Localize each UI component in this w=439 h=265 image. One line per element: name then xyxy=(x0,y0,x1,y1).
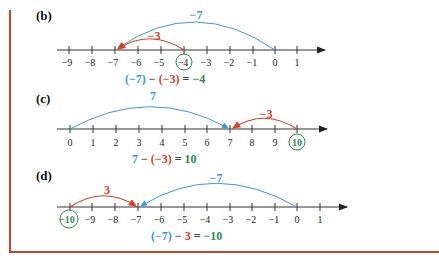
svg-text:−7: −7 xyxy=(108,57,119,68)
svg-text:9: 9 xyxy=(273,137,278,148)
svg-text:−4: −4 xyxy=(200,214,211,225)
svg-text:0: 0 xyxy=(68,137,73,148)
svg-text:5: 5 xyxy=(183,137,188,148)
svg-text:−5: −5 xyxy=(154,57,165,68)
svg-text:10: 10 xyxy=(292,137,302,148)
svg-text:−2: −2 xyxy=(246,214,257,225)
red-jump-label: −3 xyxy=(148,29,161,43)
svg-text:−1: −1 xyxy=(247,57,258,68)
red-jump-arc xyxy=(70,196,136,207)
equation: (−7) − 3 = −10 xyxy=(151,229,222,243)
red-jump-label: −3 xyxy=(260,107,273,121)
tick-labels: −10 −9 −8 −7 −6 −5 −4 −3 −2 −1 0 1 xyxy=(59,214,322,225)
svg-text:2: 2 xyxy=(114,137,119,148)
red-jump-label: 3 xyxy=(104,183,110,197)
equation: 7 − (−3) = 10 xyxy=(132,152,197,166)
panel-d: (d) −10 −9 −8 −7 −6 −5 −4 −3 −2 −1 0 1 −… xyxy=(36,168,347,243)
tick-labels: 0 1 2 3 4 5 6 7 8 9 10 xyxy=(68,137,303,148)
equation: (−7) − (−3) = −4 xyxy=(125,72,205,86)
blue-jump-arc xyxy=(70,107,228,129)
panel-label: (b) xyxy=(36,8,52,23)
number-line-diagram: (b) −9 −8 −7 −6 −5 −4 −3 −2 −1 0 1 −7 −3 xyxy=(0,0,439,265)
blue-jump-arc xyxy=(118,22,275,50)
svg-text:−6: −6 xyxy=(131,57,142,68)
svg-text:−3: −3 xyxy=(201,57,212,68)
svg-text:−8: −8 xyxy=(85,57,96,68)
svg-text:3: 3 xyxy=(137,137,142,148)
svg-text:0: 0 xyxy=(295,214,300,225)
svg-text:−9: −9 xyxy=(85,214,96,225)
svg-text:1: 1 xyxy=(295,57,300,68)
svg-text:−2: −2 xyxy=(224,57,235,68)
blue-jump-arc xyxy=(141,183,297,207)
panel-c: (c) 0 1 2 3 4 5 6 7 8 9 10 7 −3 7 − (−3) xyxy=(36,89,327,166)
svg-text:6: 6 xyxy=(205,137,210,148)
svg-text:1: 1 xyxy=(91,137,96,148)
panel-label: (d) xyxy=(36,168,52,183)
svg-text:8: 8 xyxy=(250,137,255,148)
svg-text:−9: −9 xyxy=(62,57,73,68)
blue-jump-label: 7 xyxy=(150,89,156,103)
svg-text:4: 4 xyxy=(160,137,165,148)
svg-text:1: 1 xyxy=(318,214,323,225)
blue-jump-label: −7 xyxy=(210,171,223,185)
panel-label: (c) xyxy=(36,91,50,106)
svg-text:−3: −3 xyxy=(223,214,234,225)
svg-text:−4: −4 xyxy=(178,57,189,68)
svg-text:−6: −6 xyxy=(154,214,165,225)
svg-text:7: 7 xyxy=(228,137,233,148)
panel-b: (b) −9 −8 −7 −6 −5 −4 −3 −2 −1 0 1 −7 −3 xyxy=(36,8,325,86)
blue-jump-label: −7 xyxy=(190,8,203,22)
svg-text:0: 0 xyxy=(273,57,278,68)
svg-text:−1: −1 xyxy=(269,214,280,225)
svg-text:−7: −7 xyxy=(131,214,142,225)
svg-text:−5: −5 xyxy=(177,214,188,225)
tick-labels: −9 −8 −7 −6 −5 −4 −3 −2 −1 0 1 xyxy=(62,57,300,68)
svg-text:−8: −8 xyxy=(108,214,119,225)
